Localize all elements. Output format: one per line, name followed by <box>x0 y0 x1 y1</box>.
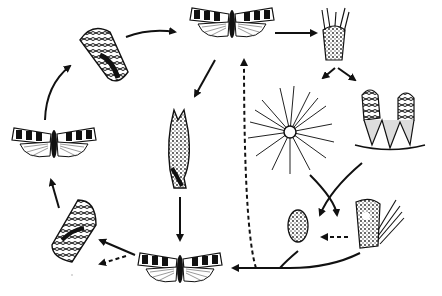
speck <box>71 274 73 276</box>
cones-right <box>355 90 425 150</box>
dashed-arrows <box>100 60 348 268</box>
diagram-canvas <box>0 0 442 296</box>
moth-left <box>12 128 96 158</box>
shoot-topright <box>322 8 349 60</box>
cone-bottomleft <box>52 200 96 262</box>
pine-needles <box>248 86 334 174</box>
arrow-shoot-to-cones <box>338 68 355 80</box>
arrow-cone-to-moth-left <box>51 180 59 208</box>
dashed-arrow-off-left <box>100 256 126 264</box>
bud-center <box>169 110 190 188</box>
branch-small-cone <box>280 251 298 268</box>
shoot-damaged <box>356 199 404 248</box>
moth-bottom <box>138 253 222 283</box>
arrow-return-to-moth <box>233 253 360 268</box>
cone-small <box>288 210 308 242</box>
arrow-moth-to-cone-bottom <box>100 240 135 255</box>
cone-topleft <box>80 28 128 80</box>
arrow-moth-to-bud <box>195 60 215 96</box>
arrow-cone-to-moth-top <box>126 31 175 37</box>
arrow-shoot-to-needles <box>323 68 335 78</box>
life-cycle-diagram <box>0 0 442 296</box>
dashed-arrow-to-moth-top <box>244 60 256 268</box>
arrow-moth-left-to-cone <box>45 66 70 120</box>
moth-top <box>190 8 274 38</box>
arrow-cones-to-small <box>320 163 362 215</box>
